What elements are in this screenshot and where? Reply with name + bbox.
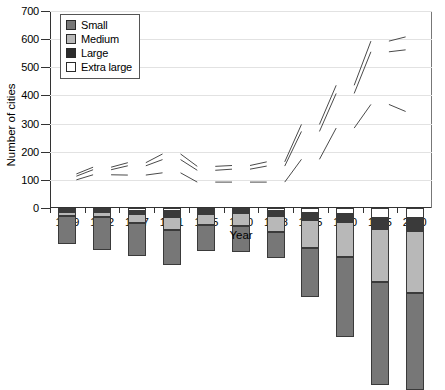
bar-1990[interactable] — [336, 79, 354, 208]
bar-segment-extra-large — [371, 208, 389, 218]
bar-segment-large — [197, 210, 215, 214]
bar-segment-extra-large — [232, 208, 250, 210]
legend-swatch-extra-large-icon — [66, 62, 76, 72]
y-axis-tick-label: 700 — [21, 5, 39, 17]
bar-segment-medium — [232, 213, 250, 226]
bar-segment-extra-large — [197, 208, 215, 210]
x-axis-tick — [293, 208, 294, 213]
x-axis-tick — [154, 208, 155, 213]
legend-swatch-medium-icon — [66, 34, 76, 44]
y-axis-tick-label: 400 — [21, 89, 39, 101]
bar-segment-large — [301, 213, 319, 220]
y-axis-tick-label: 600 — [21, 33, 39, 45]
x-axis-tick — [50, 208, 51, 213]
bar-segment-large — [371, 218, 389, 229]
legend-swatch-small-icon — [66, 20, 76, 30]
bar-segment-extra-large — [301, 208, 319, 213]
bar-1961[interactable] — [163, 151, 181, 208]
y-axis-tick — [41, 95, 50, 96]
bar-segment-medium — [197, 214, 215, 226]
x-axis-tick — [189, 208, 190, 213]
bar-1949[interactable] — [58, 172, 76, 208]
legend-item-small: Small — [66, 18, 132, 32]
bar-segment-extra-large — [406, 208, 424, 218]
legend-label-medium: Medium — [81, 33, 119, 45]
legend-swatch-large-icon — [66, 48, 76, 58]
y-axis-tick — [41, 67, 50, 68]
legend-label-small: Small — [81, 19, 108, 31]
y-axis-tick — [41, 180, 50, 181]
bar-segment-large — [128, 211, 146, 214]
bar-2000[interactable] — [406, 26, 424, 208]
bar-segment-medium — [128, 214, 146, 223]
gridline — [50, 11, 432, 12]
legend-label-extra-large: Extra large — [81, 61, 132, 73]
bar-segment-large — [232, 210, 250, 214]
x-axis-tick — [258, 208, 259, 213]
bar-segment-large — [267, 211, 285, 215]
y-axis-tick — [41, 152, 50, 153]
bar-segment-small — [336, 257, 354, 337]
x-axis-tick — [119, 208, 120, 213]
bar-1978[interactable] — [267, 158, 285, 208]
bar-1965[interactable] — [197, 165, 215, 208]
bar-segment-small — [301, 248, 319, 297]
x-axis-tick — [85, 208, 86, 213]
x-axis-tick — [224, 208, 225, 213]
bar-segment-extra-large — [128, 208, 146, 211]
bar-1957[interactable] — [128, 160, 146, 208]
bar-segment-extra-large — [93, 208, 111, 210]
y-axis-tick-label: 500 — [21, 61, 39, 73]
bar-1970[interactable] — [232, 164, 250, 208]
bar-segment-extra-large — [58, 208, 76, 210]
y-axis-tick-label: 200 — [21, 146, 39, 158]
bar-segment-extra-large — [163, 208, 181, 211]
bar-segment-large — [336, 214, 354, 222]
bar-1995[interactable] — [371, 31, 389, 208]
x-axis-tick — [397, 208, 398, 213]
legend-item-large: Large — [66, 46, 132, 60]
bar-segment-medium — [58, 212, 76, 216]
y-axis-title: Number of cities — [5, 65, 17, 185]
y-axis-tick — [41, 11, 50, 12]
y-axis-tick — [41, 124, 50, 125]
bar-segment-small — [406, 293, 424, 390]
legend-item-extra-large: Extra large — [66, 60, 132, 74]
frame-right-border — [431, 11, 432, 208]
x-axis-tick — [328, 208, 329, 213]
y-axis-tick-label: 100 — [21, 174, 39, 186]
y-axis-tick — [41, 208, 50, 209]
x-axis-title: Year — [50, 229, 432, 241]
y-axis-tick — [41, 39, 50, 40]
y-axis-tick-label: 0 — [33, 202, 39, 214]
bar-1952[interactable] — [93, 166, 111, 208]
bar-segment-large — [163, 211, 181, 217]
bar-segment-small — [371, 282, 389, 386]
legend-item-medium: Medium — [66, 32, 132, 46]
legend-label-large: Large — [81, 47, 108, 59]
bar-segment-large — [93, 210, 111, 213]
chart-legend: Small Medium Large Extra large — [60, 14, 140, 79]
bar-segment-medium — [93, 212, 111, 217]
y-axis-tick-label: 300 — [21, 118, 39, 130]
bar-1985[interactable] — [301, 119, 319, 208]
bar-segment-large — [58, 210, 76, 212]
bar-segment-extra-large — [267, 208, 285, 211]
bar-segment-extra-large — [336, 208, 354, 214]
x-axis-tick — [363, 208, 364, 213]
